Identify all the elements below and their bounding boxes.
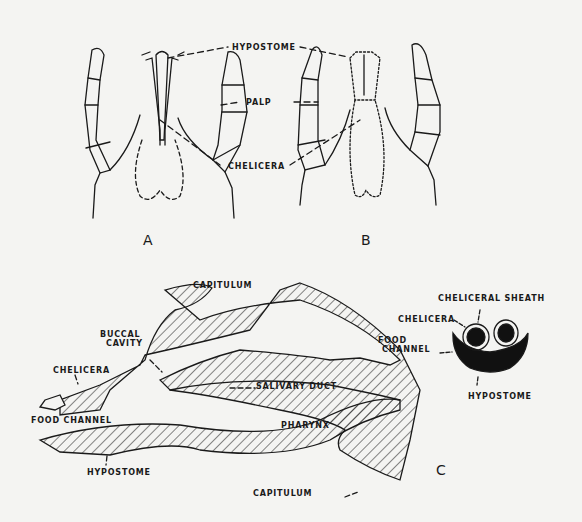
label-food-channel: FOOD CHANNEL	[31, 416, 112, 425]
label-cavity: CAVITY	[106, 339, 143, 348]
panel-c-longitudinal-section	[40, 283, 420, 480]
label-food: FOOD	[378, 336, 407, 345]
label-hypostome-section: HYPOSTOME	[468, 392, 532, 401]
label-cheliceral-sheath: CHELICERAL SHEATH	[438, 294, 545, 303]
label-buccal: BUCCAL	[100, 330, 140, 339]
label-chelicera-section: CHELICERA	[398, 315, 455, 324]
label-chelicera-c: CHELICERA	[53, 366, 110, 375]
label-pharynx: PHARYNX	[281, 421, 330, 430]
label-salivary-duct: SALIVARY DUCT	[256, 382, 337, 391]
panel-b-drawing	[298, 44, 440, 205]
label-channel: CHANNEL	[382, 345, 430, 354]
label-palp: PALP	[246, 98, 271, 107]
label-capitulum-bottom: CAPITULUM	[253, 489, 312, 498]
label-hypostome-c: HYPOSTOME	[87, 468, 151, 477]
tick-mouthparts-drawing	[0, 0, 582, 522]
panel-letter-c: C	[436, 462, 446, 478]
panel-a-drawing	[85, 48, 247, 218]
panel-letter-a: A	[143, 232, 153, 248]
label-chelicera-ab: CHELICERA	[228, 162, 285, 171]
label-hypostome-ab: HYPOSTOME	[232, 43, 296, 52]
label-capitulum-top: CAPITULUM	[193, 281, 252, 290]
panel-letter-b: B	[361, 232, 371, 248]
